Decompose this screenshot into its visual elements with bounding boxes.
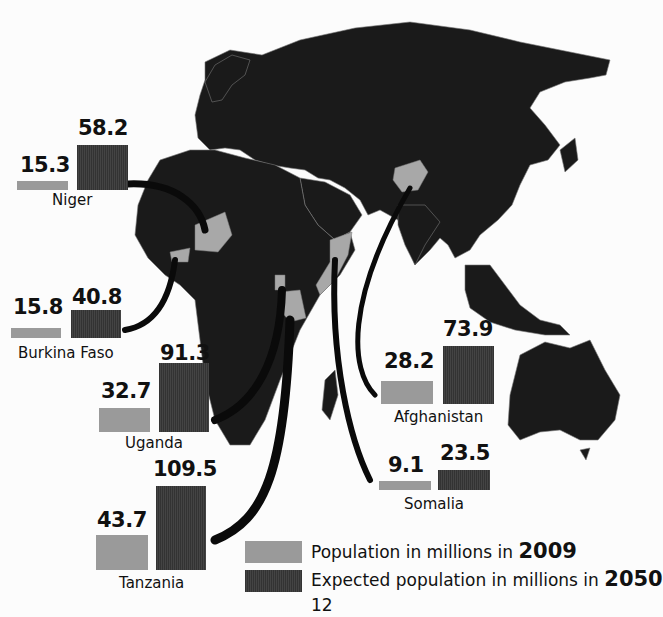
niger-2050-value: 58.2 — [78, 118, 128, 139]
legend-text-2050: Expected population in millions in — [311, 570, 604, 590]
uganda-label: Uganda — [125, 436, 183, 451]
afghanistan-label: Afghanistan — [394, 410, 483, 425]
legend-year-2009: 2009 — [518, 539, 576, 563]
somalia-2050-value: 23.5 — [440, 443, 490, 464]
tanzania-2050-value: 109.5 — [153, 459, 217, 480]
page-number: 12 — [311, 597, 333, 614]
legend-text-2009: Population in millions in — [311, 542, 518, 562]
burkina-label: Burkina Faso — [18, 346, 114, 361]
burkina-2050-bar — [71, 310, 121, 338]
tanzania-2009-value: 43.7 — [97, 510, 147, 531]
afghanistan-2009-bar — [381, 381, 433, 404]
somalia-2050-bar — [438, 470, 490, 490]
burkina-2009-bar — [11, 328, 61, 338]
legend-swatch-2009 — [245, 541, 302, 563]
madagascar — [322, 370, 338, 420]
tanzania-2009-bar — [96, 535, 148, 570]
uganda-2009-bar — [99, 408, 150, 432]
niger-label: Niger — [52, 193, 92, 208]
afghanistan-2050-value: 73.9 — [443, 319, 493, 340]
burkina-2050-value: 40.8 — [72, 287, 122, 308]
tanzania-label: Tanzania — [119, 576, 184, 591]
somalia-label: Somalia — [404, 497, 464, 512]
somalia-2009-bar — [379, 481, 431, 490]
afghanistan-2050-bar — [443, 346, 494, 404]
tanzania-2050-bar — [156, 486, 206, 570]
niger-2050-bar — [77, 145, 128, 190]
somalia-2009-value: 9.1 — [388, 455, 424, 476]
niger-2009-bar — [17, 181, 68, 190]
legend-year-2050: 2050 — [604, 567, 662, 591]
legend-label-2050: Expected population in millions in 2050 — [311, 569, 663, 590]
burkina-2009-value: 15.8 — [13, 297, 63, 318]
legend-label-2009: Population in millions in 2009 — [311, 541, 577, 562]
uganda-2050-bar — [159, 363, 209, 432]
uganda-2050-value: 91.3 — [160, 343, 210, 364]
uganda-2009-value: 32.7 — [101, 381, 151, 402]
afghanistan-2009-value: 28.2 — [384, 351, 434, 372]
japan — [560, 138, 578, 172]
australia — [508, 340, 620, 440]
legend-swatch-2050 — [245, 570, 302, 592]
niger-2009-value: 15.3 — [20, 155, 70, 176]
